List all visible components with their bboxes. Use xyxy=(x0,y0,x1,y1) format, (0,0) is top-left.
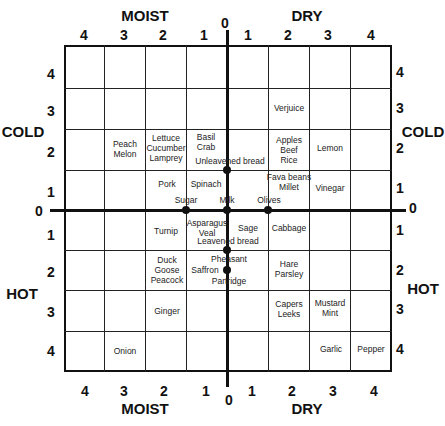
point-label-sugar: Sugar xyxy=(175,195,198,205)
point-label-olives: Olives xyxy=(257,195,281,205)
top-tick-dry-1: 1 xyxy=(244,27,252,43)
right-hot-label: HOT xyxy=(407,280,439,297)
left-tick-zero: 0 xyxy=(35,203,43,219)
cell-duck-group: Duck Goose Peacock xyxy=(151,255,184,285)
cell-pepper: Pepper xyxy=(357,344,384,354)
cell-cabbage: Cabbage xyxy=(272,223,307,233)
left-tick-cold-3: 3 xyxy=(47,103,55,119)
top-tick-dry-3: 3 xyxy=(324,27,332,43)
bottom-tick-moist-1: 1 xyxy=(202,383,210,399)
left-tick-cold-1: 1 xyxy=(47,184,55,200)
cell-spinach: Spinach xyxy=(191,179,222,189)
cell-turnip: Turnip xyxy=(154,226,178,236)
bottom-dry-label: DRY xyxy=(291,400,322,417)
point-dot-sugar xyxy=(182,206,190,214)
point-dot-milk xyxy=(223,206,231,214)
cell-garlic: Garlic xyxy=(320,344,342,354)
bottom-tick-moist-4: 4 xyxy=(81,383,89,399)
point-label-unleavened-bread: Unleavened bread xyxy=(195,156,264,166)
cell-apples-group: Apples Beef Rice xyxy=(276,135,302,165)
right-tick-cold-2: 2 xyxy=(396,140,404,156)
cell-pork: Pork xyxy=(158,179,175,189)
top-tick-moist-2: 2 xyxy=(159,27,167,43)
cell-asparagus-veal: Asparagus Veal xyxy=(187,218,228,238)
cell-onion: Onion xyxy=(114,346,137,356)
left-tick-cold-4: 4 xyxy=(47,66,55,82)
cell-hare-parsley: Hare Parsley xyxy=(275,259,303,279)
left-tick-hot-1: 1 xyxy=(47,227,55,243)
cell-basil-crab: Basil Crab xyxy=(197,132,215,152)
right-tick-hot-3: 3 xyxy=(396,301,404,317)
bottom-tick-dry-4: 4 xyxy=(370,383,378,399)
top-moist-label: MOIST xyxy=(121,7,169,24)
top-tick-dry-2: 2 xyxy=(284,27,292,43)
left-tick-hot-3: 3 xyxy=(47,304,55,320)
top-tick-moist-4: 4 xyxy=(80,27,88,43)
cell-mustard-mint: Mustard Mint xyxy=(315,298,346,318)
cell-sage: Sage xyxy=(238,223,258,233)
bottom-moist-label: MOIST xyxy=(121,400,169,417)
point-dot-leavened-bread xyxy=(223,246,231,254)
bottom-tick-moist-2: 2 xyxy=(160,383,168,399)
right-tick-cold-1: 1 xyxy=(396,180,404,196)
top-tick-dry-4: 4 xyxy=(367,27,375,43)
cell-ginger: Ginger xyxy=(154,306,180,316)
cell-peach-melon: Peach Melon xyxy=(113,139,137,159)
cell-fava-group: Fava beans Millet xyxy=(267,172,311,192)
point-dot-unleavened-bread xyxy=(223,166,231,174)
point-label-pheasant: Pheasant xyxy=(211,254,247,264)
right-tick-cold-3: 3 xyxy=(396,100,404,116)
left-hot-label: HOT xyxy=(6,285,38,302)
cell-vinegar: Vinegar xyxy=(315,183,344,193)
cell-saffron: Saffron xyxy=(191,265,218,275)
top-dry-label: DRY xyxy=(291,7,322,24)
right-tick-hot-4: 4 xyxy=(396,341,404,357)
left-tick-cold-2: 2 xyxy=(47,144,55,160)
cell-verjuice: Verjuice xyxy=(274,103,304,113)
point-label-milk: Milk xyxy=(219,195,234,205)
left-tick-hot-4: 4 xyxy=(47,343,55,359)
right-tick-zero: 0 xyxy=(409,200,417,216)
right-tick-hot-1: 1 xyxy=(396,222,404,238)
right-tick-cold-4: 4 xyxy=(396,64,404,80)
point-dot-partridge xyxy=(223,266,231,274)
bottom-tick-zero: 0 xyxy=(225,392,233,408)
cell-lemon: Lemon xyxy=(317,143,343,153)
right-cold-label: COLD xyxy=(402,123,445,140)
point-label-leavened-bread: Leavened bread xyxy=(197,236,258,246)
bottom-tick-dry-1: 1 xyxy=(248,383,256,399)
bottom-tick-dry-2: 2 xyxy=(288,383,296,399)
point-dot-olives xyxy=(264,206,272,214)
cell-capers-leeks: Capers Leeks xyxy=(275,299,302,319)
top-tick-moist-1: 1 xyxy=(200,27,208,43)
right-tick-hot-2: 2 xyxy=(396,262,404,278)
top-tick-moist-3: 3 xyxy=(120,27,128,43)
top-tick-zero: 0 xyxy=(221,15,229,31)
left-tick-hot-2: 2 xyxy=(47,264,55,280)
cell-lettuce-group: Lettuce Cucumber Lamprey xyxy=(146,133,185,163)
left-cold-label: COLD xyxy=(2,123,45,140)
bottom-tick-dry-3: 3 xyxy=(329,383,337,399)
point-label-partridge: Partridge xyxy=(212,276,247,286)
bottom-tick-moist-3: 3 xyxy=(120,383,128,399)
